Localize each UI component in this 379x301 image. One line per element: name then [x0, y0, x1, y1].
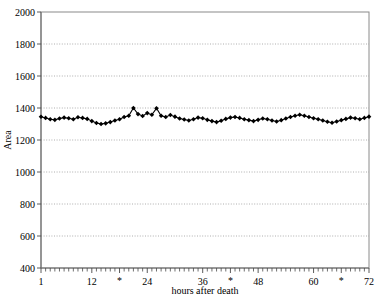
y-tick-label-2000: 2000	[15, 7, 35, 18]
data-point	[53, 118, 58, 123]
data-point	[247, 118, 252, 123]
x-tick-label-72: 72	[364, 276, 374, 287]
data-point	[297, 112, 302, 117]
data-point	[242, 117, 247, 122]
data-point	[200, 116, 205, 121]
data-point	[163, 115, 168, 120]
x-tick-label-12: 12	[87, 276, 97, 287]
data-point	[80, 116, 85, 121]
data-point	[108, 120, 113, 125]
y-tick-label-1800: 1800	[15, 39, 35, 50]
x-tick-label-star-66: *	[339, 275, 344, 286]
y-tick-label-800: 800	[20, 199, 35, 210]
data-point	[90, 119, 95, 124]
data-point	[196, 115, 201, 120]
data-point	[339, 118, 344, 123]
scatter-plot: 200018001600140012001000800600400112*243…	[0, 0, 379, 301]
data-point	[214, 120, 219, 125]
data-point	[233, 115, 238, 120]
data-point	[168, 113, 173, 118]
y-tick-label-1000: 1000	[15, 167, 35, 178]
data-point	[348, 115, 353, 120]
data-point	[270, 118, 275, 123]
data-point	[353, 116, 358, 121]
data-point	[344, 117, 349, 122]
data-point	[48, 117, 53, 122]
x-tick-label-24: 24	[142, 276, 152, 287]
data-point	[330, 120, 335, 125]
chart-container: 200018001600140012001000800600400112*243…	[0, 0, 379, 301]
data-point	[62, 115, 67, 120]
data-point	[288, 115, 293, 120]
data-point	[367, 114, 372, 119]
y-tick-label-1600: 1600	[15, 71, 35, 82]
data-point	[256, 118, 261, 123]
data-point	[302, 113, 307, 118]
y-tick-label-600: 600	[20, 231, 35, 242]
data-point	[94, 121, 99, 126]
y-tick-label-400: 400	[20, 263, 35, 274]
data-point	[113, 118, 118, 123]
y-tick-label-1400: 1400	[15, 103, 35, 114]
data-point	[321, 118, 326, 123]
data-point	[71, 117, 76, 122]
data-point	[279, 118, 284, 123]
data-point	[173, 114, 178, 119]
data-point	[334, 119, 339, 124]
data-point	[260, 116, 265, 121]
data-point	[76, 115, 81, 120]
data-point	[85, 117, 90, 122]
data-point	[43, 116, 48, 121]
y-tick-label-1200: 1200	[15, 135, 35, 146]
data-point	[219, 119, 224, 124]
data-point	[293, 113, 298, 118]
data-point	[325, 119, 330, 124]
data-point	[311, 116, 316, 121]
data-point	[191, 117, 196, 122]
data-point	[228, 115, 233, 120]
data-point	[357, 117, 362, 122]
y-axis-title: Area	[2, 130, 13, 150]
data-point	[187, 118, 192, 123]
x-tick-label-star-18: *	[117, 275, 122, 286]
data-point	[117, 117, 122, 122]
data-point	[177, 116, 182, 121]
data-point	[265, 117, 270, 122]
x-axis-title: hours after death	[171, 285, 238, 296]
data-point	[210, 119, 215, 124]
x-tick-label-60: 60	[309, 276, 319, 287]
data-point	[122, 115, 127, 120]
data-point	[223, 117, 228, 122]
data-point	[237, 116, 242, 121]
data-point	[316, 117, 321, 122]
data-point	[66, 116, 71, 121]
data-point	[284, 116, 289, 121]
data-point	[307, 115, 312, 120]
x-tick-label-48: 48	[253, 276, 263, 287]
data-point	[39, 115, 44, 120]
x-tick-label-1: 1	[39, 276, 44, 287]
data-point	[57, 116, 62, 121]
data-point	[103, 121, 108, 126]
data-point	[182, 117, 187, 122]
data-point	[205, 118, 210, 123]
data-point	[99, 122, 104, 127]
data-point	[251, 119, 256, 124]
data-point	[274, 119, 279, 124]
data-point	[362, 116, 367, 121]
